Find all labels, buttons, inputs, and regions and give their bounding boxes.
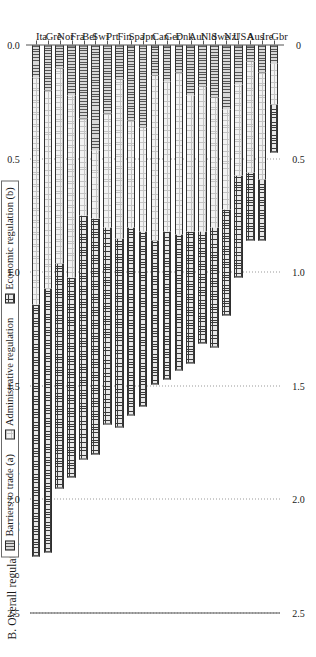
x-axis-tick-label: 1.5 — [7, 380, 20, 391]
category-tick — [131, 40, 132, 44]
legend-swatch-barriers — [5, 540, 15, 550]
bar-segment-administrative — [44, 90, 53, 288]
bar-can — [151, 45, 160, 384]
legend-swatch-administrative — [5, 430, 15, 440]
legend-item-economic: Economic regulation (b) — [4, 187, 15, 304]
bar-segment-administrative — [151, 75, 160, 241]
bar-nld — [198, 45, 207, 343]
bar-segment-barriers — [210, 45, 219, 97]
category-tick — [48, 40, 49, 44]
bar-fra — [67, 45, 76, 477]
bar-segment-administrative — [139, 127, 148, 232]
category-tick — [36, 40, 37, 44]
bar-gbr — [270, 45, 279, 152]
bar-segment-economic — [103, 227, 112, 425]
bar-nor — [55, 45, 64, 488]
bar-segment-barriers — [198, 45, 207, 86]
bar-ger — [163, 45, 172, 379]
bar-segment-economic — [258, 179, 267, 240]
chart-canvas: B. Overall regulatory approaches by area… — [0, 0, 316, 657]
bar-segment-administrative — [258, 72, 267, 179]
bar-prt — [103, 45, 112, 424]
bar-segment-barriers — [127, 45, 136, 120]
bar-segment-administrative — [103, 113, 112, 227]
bar-dnk — [175, 45, 184, 370]
x-axis-tick-label: 2.5 — [292, 608, 305, 619]
bar-spa — [127, 45, 136, 415]
x-axis-tick-label: 2.0 — [292, 494, 305, 505]
bar-segment-administrative — [186, 95, 195, 231]
x-axis-tick-label: 1.0 — [7, 267, 20, 278]
bar-segment-economic — [55, 263, 64, 488]
bar-segment-administrative — [91, 150, 100, 218]
bar-aut — [186, 45, 195, 363]
bar-usa — [234, 45, 243, 277]
legend-swatch-economic — [5, 293, 15, 303]
bar-jpn — [139, 45, 148, 406]
bar-segment-economic — [67, 277, 76, 477]
bar-segment-economic — [151, 240, 160, 383]
gridline — [30, 498, 280, 499]
bar-gre — [44, 45, 53, 552]
bar-segment-administrative — [222, 109, 231, 209]
bar-segment-administrative — [127, 120, 136, 227]
category-tick — [72, 40, 73, 44]
category-tick — [215, 40, 216, 44]
bar-segment-barriers — [79, 45, 88, 118]
category-tick — [262, 40, 263, 44]
bar-segment-administrative — [234, 84, 243, 175]
bar-segment-barriers — [103, 45, 112, 113]
category-tick — [203, 40, 204, 44]
left-axis-spine — [30, 612, 280, 613]
bar-segment-barriers — [151, 45, 160, 75]
bar-segment-administrative — [55, 68, 64, 263]
bar-segment-administrative — [79, 118, 88, 216]
bar-segment-administrative — [163, 81, 172, 231]
bar-segment-barriers — [258, 45, 267, 72]
category-tick — [119, 40, 120, 44]
bar-segment-administrative — [115, 79, 124, 238]
bar-segment-barriers — [186, 45, 195, 95]
category-tick — [274, 40, 275, 44]
x-axis-tick-label: 2.0 — [7, 494, 20, 505]
bar-segment-barriers — [139, 45, 148, 127]
bar-ire — [258, 45, 267, 240]
bar-segment-administrative — [175, 72, 184, 233]
category-tick — [155, 40, 156, 44]
bar-segment-barriers — [222, 45, 231, 109]
x-axis-tick-label: 0 — [296, 40, 301, 51]
bar-segment-administrative — [210, 97, 219, 227]
bar-segment-economic — [127, 227, 136, 416]
bar-segment-economic — [175, 234, 184, 370]
bar-segment-economic — [222, 209, 231, 316]
bar-segment-barriers — [234, 45, 243, 84]
bar-segment-barriers — [163, 45, 172, 81]
bar-aus — [246, 45, 255, 240]
bar-segment-barriers — [175, 45, 184, 72]
category-tick — [226, 40, 227, 44]
bar-segment-economic — [198, 231, 207, 342]
bar-segment-administrative — [32, 77, 41, 304]
bar-segment-economic — [32, 304, 41, 556]
bar-segment-barriers — [91, 45, 100, 150]
category-tick — [179, 40, 180, 44]
category-tick — [95, 40, 96, 44]
bar-segment-administrative — [67, 95, 76, 277]
bar-segment-economic — [139, 231, 148, 406]
bar-segment-barriers — [44, 45, 53, 90]
bar-segment-economic — [91, 218, 100, 454]
bar-segment-administrative — [270, 63, 279, 104]
x-axis-tick-label: 0.5 — [292, 153, 305, 164]
bar-segment-economic — [163, 231, 172, 379]
bar-fin — [115, 45, 124, 427]
bar-bel — [79, 45, 88, 459]
bar-segment-barriers — [246, 45, 255, 61]
category-tick — [60, 40, 61, 44]
bar-segment-economic — [186, 231, 195, 363]
bar-segment-economic — [44, 288, 53, 552]
bar-ita — [32, 45, 41, 556]
legend-label-administrative: Administrative regulation — [4, 317, 15, 425]
bar-segment-economic — [270, 104, 279, 152]
bar-segment-barriers — [32, 45, 41, 77]
category-tick — [238, 40, 239, 44]
